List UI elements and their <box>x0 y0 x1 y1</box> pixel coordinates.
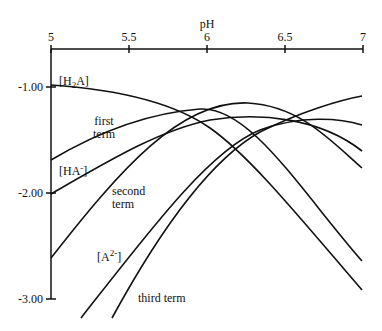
label-a2: [A2-] <box>97 248 121 264</box>
inline-labels: [H2A] first term [HA-] second term [A2-]… <box>59 74 186 305</box>
label-h2a: [H2A] <box>59 74 89 90</box>
x-tick-label: 6 <box>204 30 210 44</box>
x-tick-label: 5.5 <box>122 30 137 44</box>
y-tick-label: -1.00 <box>18 80 43 94</box>
y-axis: -1.00 -2.00 -3.00 <box>18 49 56 306</box>
x-tick-label: 6.5 <box>278 30 293 44</box>
x-tick-label: 5 <box>48 30 54 44</box>
x-axis-title: pH <box>200 17 215 31</box>
label-ha: [HA-] <box>59 163 87 178</box>
series-a2-line <box>81 119 362 318</box>
x-tick-label: 7 <box>360 30 366 44</box>
label-third-term: third term <box>138 291 186 305</box>
label-first-term-2: term <box>93 127 116 141</box>
label-second-term-2: term <box>112 197 135 211</box>
y-tick-label: -3.00 <box>18 292 43 306</box>
y-tick-label: -2.00 <box>18 186 43 200</box>
label-first-term-1: first <box>94 114 114 128</box>
label-second-term-1: second <box>112 184 145 198</box>
x-axis: 5 5.5 6 6.5 7 pH <box>48 17 366 53</box>
chart-figure: 5 5.5 6 6.5 7 pH -1.00 -2.00 -3.00 [H2A]… <box>0 0 382 331</box>
